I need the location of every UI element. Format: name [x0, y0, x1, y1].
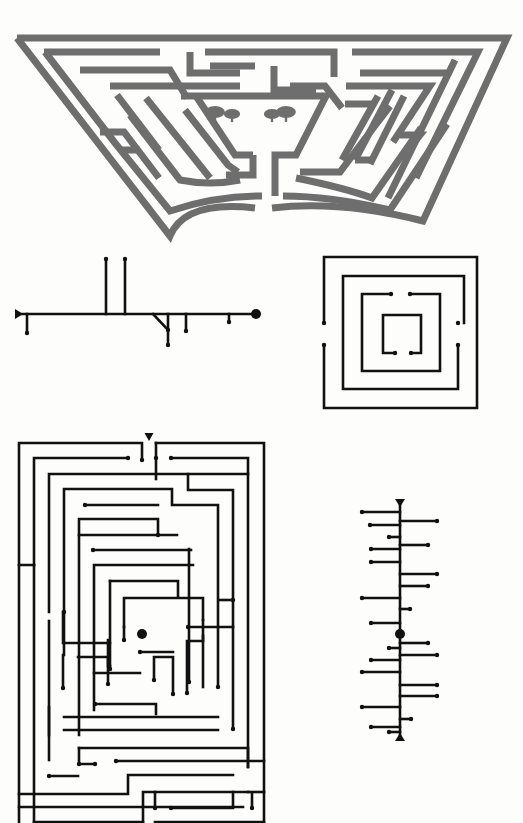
maze-wall [362, 294, 440, 371]
wall-end-dot [62, 610, 66, 614]
maze-wall [63, 612, 110, 643]
rectangular-maze [19, 433, 264, 822]
dead-end-dot [435, 683, 439, 687]
dead-end-dot [368, 523, 372, 527]
tree-trunk [214, 112, 216, 122]
maze-wall [95, 704, 156, 714]
wall-end-dot [456, 321, 460, 325]
dead-end-dot [369, 547, 373, 551]
maze-illustrations-canvas [0, 0, 523, 823]
maze-wall [324, 257, 477, 408]
dead-end-dot [369, 658, 373, 662]
maze-wall [79, 748, 95, 764]
dead-end-dot [435, 694, 439, 698]
dead-end-dot [387, 535, 391, 539]
wall-end-dot [152, 678, 156, 682]
wall-end-dot [140, 458, 144, 462]
wall-end-dot [106, 682, 110, 686]
tree-trunk [231, 114, 233, 122]
wall-end-dot [322, 321, 326, 325]
wall-end-dot [83, 503, 87, 507]
dead-end-dot [360, 670, 364, 674]
goal-dot [251, 309, 261, 319]
dead-end-dot [409, 717, 413, 721]
wall-end-dot [456, 343, 460, 347]
branch-line [153, 314, 168, 330]
wall-end-dot [322, 343, 326, 347]
dead-end-dot [426, 543, 430, 547]
arrow-right-marker-icon [15, 309, 23, 319]
goal-dot [395, 629, 405, 639]
maze-wall [188, 474, 233, 729]
maze-wall [79, 748, 248, 767]
dead-end-dot [184, 329, 188, 333]
wall-end-dot [153, 806, 157, 810]
wall-end-dot [154, 456, 158, 460]
wall-end-dot [169, 456, 173, 460]
dead-end-dot [408, 607, 412, 611]
maze-wall [110, 581, 178, 597]
tree-diagram-horizontal [15, 257, 261, 347]
wall-end-dot [126, 456, 130, 460]
hedge-wall [146, 98, 210, 178]
wall-end-dot [250, 806, 254, 810]
wall-end-dot [47, 774, 51, 778]
hedge-maze-trapezoid [17, 38, 507, 236]
wall-end-dot [186, 625, 190, 629]
wall-end-dot [61, 686, 65, 690]
dead-end-dot [369, 725, 373, 729]
dead-end-dot [227, 320, 231, 324]
tree-diagram-vertical [360, 499, 439, 741]
dead-end-dot [435, 653, 439, 657]
wall-end-dot [187, 680, 191, 684]
arrow-down-marker-icon [145, 433, 154, 441]
tree-trunk [285, 112, 287, 122]
dead-end-dot [369, 621, 373, 625]
wall-end-dot [93, 702, 97, 706]
maze-wall [171, 792, 233, 808]
wall-end-dot [114, 759, 118, 763]
arrow-down-marker-icon [395, 499, 405, 507]
wall-end-dot [171, 692, 175, 696]
tree-icon [276, 106, 296, 122]
wall-end-dot [185, 691, 189, 695]
tree-icon [224, 109, 240, 122]
maze-wall [383, 315, 421, 353]
dead-end-dot [435, 572, 439, 576]
square-spiral-maze [322, 257, 477, 408]
dead-end-dot [426, 641, 430, 645]
wall-end-dot [93, 762, 97, 766]
wall-end-dot [91, 548, 95, 552]
hedge-wall [196, 96, 253, 155]
book-page-maze-illustrations [0, 0, 523, 823]
dead-end-dot [369, 560, 373, 564]
maze-wall [124, 598, 203, 627]
dead-end-dot [166, 343, 170, 347]
goal-dot [137, 629, 147, 639]
wall-end-dot [389, 292, 393, 296]
dead-end-dot [387, 646, 391, 650]
wall-end-dot [138, 650, 142, 654]
wall-end-dot [122, 638, 126, 642]
dead-end-dot [426, 584, 430, 588]
wall-end-dot [409, 351, 413, 355]
tree-trunk [271, 114, 273, 122]
dead-end-dot [25, 331, 29, 335]
wall-end-dot [216, 685, 220, 689]
dead-end-dot [387, 730, 391, 734]
wall-end-dot [408, 292, 412, 296]
dead-end-dot [104, 257, 108, 261]
wall-end-dot [231, 598, 235, 602]
maze-wall [79, 519, 158, 735]
wall-end-dot [108, 667, 112, 671]
maze-wall [154, 657, 173, 694]
dead-end-dot [360, 705, 364, 709]
dead-end-dot [360, 596, 364, 600]
dead-end-dot [123, 257, 127, 261]
arrow-up-marker-icon [395, 733, 405, 741]
wall-end-dot [77, 762, 81, 766]
wall-end-dot [156, 533, 160, 537]
dead-end-dot [435, 519, 439, 523]
wall-end-dot [393, 351, 397, 355]
wall-end-dot [231, 727, 235, 731]
